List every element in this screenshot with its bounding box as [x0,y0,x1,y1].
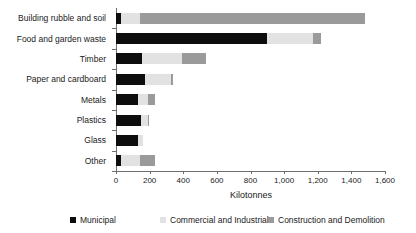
x-axis-tick-label: 1,000 [274,176,294,185]
bar-row [116,13,385,24]
bar-segment-construction [171,74,173,85]
bar-segment-commercial [267,33,312,44]
legend-swatch-icon [160,217,166,223]
category-label: Timber [80,54,106,64]
bar-segment-municipal [116,94,138,105]
bar-segment-commercial [121,155,139,166]
legend-label: Commercial and Industrial [170,215,269,225]
category-label: Glass [84,135,106,145]
bar-segment-construction [182,53,206,64]
legend-swatch-icon [268,217,274,223]
legend-label: Construction and Demolition [278,215,385,225]
x-axis-tick-label: 1,400 [341,176,361,185]
x-axis-tick [351,171,352,174]
x-axis-tick-label: 800 [244,176,257,185]
x-axis-tick-label: 400 [177,176,190,185]
chart-legend: MunicipalCommercial and IndustrialConstr… [0,212,416,228]
bar-segment-construction [313,33,321,44]
x-axis-tick-label: 1,600 [375,176,395,185]
x-axis-tick [385,171,386,174]
bar-segment-construction [148,115,149,126]
bar-segment-municipal [116,115,141,126]
legend-item-commercial[interactable]: Commercial and Industrial [160,215,269,225]
plot-area [116,8,385,171]
bar-row [116,74,385,85]
bar-row [116,135,385,146]
bar-segment-construction [140,13,365,24]
bar-segment-municipal [116,74,145,85]
x-axis-tick [284,171,285,174]
bar-segment-commercial [138,94,148,105]
bar-segment-construction [140,155,155,166]
bar-row [116,33,385,44]
x-axis-title: Kilotonnes [116,190,386,200]
x-axis-tick-label: 200 [143,176,156,185]
x-axis-tick [251,171,252,174]
category-label: Paper and cardboard [26,74,106,84]
bar-segment-municipal [116,33,267,44]
x-axis-tick [217,171,218,174]
bar-row [116,53,385,64]
bar-row [116,115,385,126]
category-label: Metals [81,95,106,105]
legend-label: Municipal [80,215,116,225]
x-axis-tick [183,171,184,174]
x-axis-tick-label: 0 [114,176,118,185]
bar-segment-commercial [145,74,172,85]
legend-item-municipal[interactable]: Municipal [70,215,116,225]
bar-segment-commercial [141,115,148,126]
bar-segment-commercial [142,53,182,64]
waste-stacked-bar-chart: Building rubble and soilFood and garden … [0,0,416,233]
category-label: Building rubble and soil [18,13,106,23]
bar-row [116,94,385,105]
category-label: Food and garden waste [17,34,106,44]
x-axis-tick [116,171,117,174]
bar-segment-construction [148,94,155,105]
x-axis-tick [150,171,151,174]
bar-segment-municipal [116,135,138,146]
category-label: Other [85,156,106,166]
x-axis-tick [318,171,319,174]
bar-segment-commercial [121,13,139,24]
legend-item-construction[interactable]: Construction and Demolition [268,215,385,225]
x-axis-tick-label: 600 [210,176,223,185]
bar-row [116,155,385,166]
x-axis-tick-label: 1,200 [308,176,328,185]
category-label: Plastics [77,115,106,125]
bar-segment-commercial [138,135,143,146]
bar-segment-municipal [116,53,142,64]
legend-swatch-icon [70,217,76,223]
